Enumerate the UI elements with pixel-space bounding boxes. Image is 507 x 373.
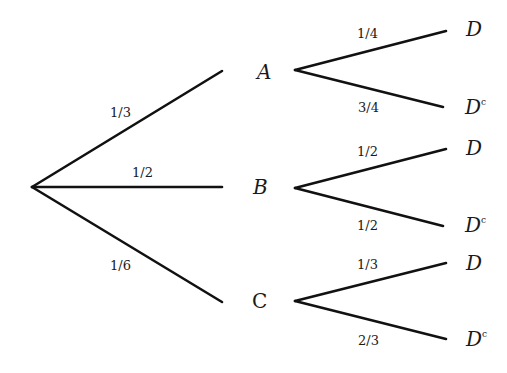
complement-superscript: c <box>481 97 486 107</box>
complement-superscript: c <box>481 215 486 225</box>
prob-label-C-D-complement: 2/3 <box>358 333 379 348</box>
node-C-D-complement: Dc <box>465 327 487 351</box>
leaf-label: D <box>464 95 481 119</box>
node-C-D-event: D <box>465 251 482 275</box>
node-C: C <box>252 289 267 313</box>
prob-label-B-D-event: 1/2 <box>357 144 378 159</box>
prob-label-A-D-event: 1/4 <box>357 26 378 41</box>
probability-tree-diagram: 1/3A1/4D3/4Dc1/2B1/2D1/2Dc1/6C1/3D2/3Dc <box>0 0 507 373</box>
node-B-D-event: D <box>465 136 482 160</box>
node-B: B <box>252 175 268 199</box>
prob-label-B: 1/2 <box>132 165 153 180</box>
prob-label-A: 1/3 <box>110 105 131 120</box>
leaf-label: D <box>464 213 481 237</box>
node-A: A <box>255 60 271 84</box>
node-B-D-complement: Dc <box>464 213 486 237</box>
leaf-label: D <box>465 327 482 351</box>
prob-label-B-D-complement: 1/2 <box>357 218 378 233</box>
complement-superscript: c <box>482 329 487 339</box>
prob-label-C: 1/6 <box>110 258 131 273</box>
node-A-D-complement: Dc <box>464 95 486 119</box>
branch-root-to-C <box>32 187 222 302</box>
leaf-label: D <box>465 251 482 275</box>
node-A-D-event: D <box>465 17 482 41</box>
prob-label-C-D-event: 1/3 <box>357 257 378 272</box>
prob-label-A-D-complement: 3/4 <box>358 100 379 115</box>
leaf-label: D <box>465 136 482 160</box>
leaf-label: D <box>465 17 482 41</box>
branch-root-to-A <box>32 71 222 187</box>
